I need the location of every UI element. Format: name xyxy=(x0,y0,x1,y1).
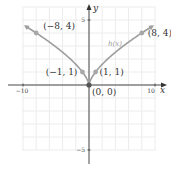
chart: (−8, 4)(−1, 1)(0, 0)(1, 1)(8, 4) −10 10 … xyxy=(0,0,171,175)
data-point xyxy=(93,70,98,75)
data-point xyxy=(80,70,85,75)
curve-label: h(x) xyxy=(108,40,122,48)
x-axis-label: x xyxy=(160,85,165,95)
y-tick-label-min: −5 xyxy=(76,146,85,153)
x-tick-label-min: −10 xyxy=(16,87,29,94)
data-point-label: (1, 1) xyxy=(100,67,124,77)
data-point-label: (−1, 1) xyxy=(46,67,78,77)
y-tick-label-max: 5 xyxy=(81,16,85,23)
labels: −10 10 5 −5 x y h(x) xyxy=(16,3,165,153)
data-point xyxy=(139,31,144,36)
data-point xyxy=(86,82,91,87)
y-axis-label: y xyxy=(92,3,99,13)
data-point-label: (0, 0) xyxy=(92,87,116,97)
data-point xyxy=(34,31,39,36)
x-tick-label-max: 10 xyxy=(147,87,155,94)
data-point-label: (−8, 4) xyxy=(43,21,75,31)
data-point-label: (8, 4) xyxy=(148,28,171,38)
